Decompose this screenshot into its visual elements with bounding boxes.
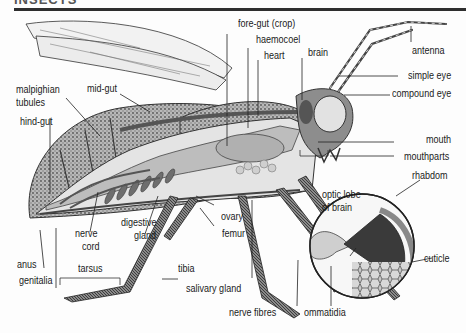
- label-mouth: mouth: [426, 133, 451, 145]
- label-tibia: tibia: [178, 262, 195, 274]
- label-cord: cord: [82, 240, 100, 252]
- label-salivary-gland: salivary gland: [186, 282, 241, 294]
- label-optic-lobe: optic lobe: [322, 188, 361, 200]
- label-tubules: tubules: [16, 96, 45, 108]
- label-brain: brain: [308, 46, 328, 58]
- label-malpighian: malpighian: [16, 83, 60, 95]
- label-nerve-fibres: nerve fibres: [229, 306, 276, 318]
- label-fore-gut: fore-gut (crop): [238, 17, 295, 29]
- crop: [216, 134, 284, 162]
- label-hind-gut: hind-gut: [20, 115, 53, 127]
- compound-eye: [314, 96, 346, 132]
- label-femur: femur: [222, 227, 245, 239]
- label-compound-eye: compound eye: [392, 87, 451, 99]
- antennae: [330, 22, 446, 92]
- label-mid-gut: mid-gut: [87, 82, 117, 94]
- label-nerve: nerve: [75, 227, 98, 239]
- brain: [299, 100, 313, 124]
- label-ovary: ovary: [221, 210, 243, 222]
- label-rhabdom: rhabdom: [412, 169, 448, 181]
- label-anus: anus: [17, 258, 37, 270]
- tarsus-bracket: [60, 278, 120, 285]
- wings: [26, 21, 232, 90]
- label-simple-eye: simple eye: [408, 69, 451, 81]
- label-haemocoel: haemocoel: [256, 33, 300, 45]
- label-tarsus: tarsus: [78, 262, 103, 274]
- label-genitalia: genitalia: [19, 274, 53, 286]
- label-antenna: antenna: [412, 44, 445, 56]
- label-of-brain: of brain: [322, 201, 352, 213]
- label-heart: heart: [264, 49, 285, 61]
- label-ommatidia: ommatidia: [304, 306, 346, 318]
- diagram-page: INSECTS: [0, 0, 466, 333]
- label-cuticle: cuticle: [424, 252, 450, 264]
- label-mouthparts: mouthparts: [404, 150, 449, 162]
- label-gland: gland: [134, 229, 156, 241]
- label-digestive: digestive: [121, 216, 157, 228]
